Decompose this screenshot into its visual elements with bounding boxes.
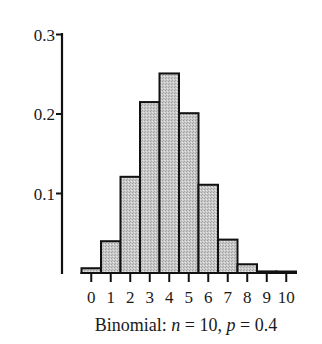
x-tick-label: 6 — [204, 288, 213, 307]
x-tick-label: 9 — [263, 288, 272, 307]
x-tick-label: 10 — [278, 288, 295, 307]
y-tick-label: 0.1 — [34, 185, 55, 204]
binomial-distribution-chart: 0.10.20.3 012345678910 Binomial: n = 10,… — [0, 0, 322, 344]
y-tick-label: 0.3 — [34, 26, 55, 45]
bar-1 — [101, 241, 121, 273]
caption-p-variable: p — [225, 315, 236, 335]
chart-caption: Binomial: n = 10, p = 0.4 — [95, 315, 277, 335]
x-tick-label: 2 — [126, 288, 135, 307]
x-tick-label: 0 — [87, 288, 96, 307]
bar-4 — [160, 73, 180, 273]
bar-8 — [238, 264, 258, 273]
bar-5 — [179, 113, 199, 273]
x-tick-label: 8 — [243, 288, 252, 307]
x-tick-label: 4 — [165, 288, 174, 307]
y-tick-label: 0.2 — [34, 105, 55, 124]
x-tick-label: 5 — [185, 288, 194, 307]
caption-p-value: = 0.4 — [236, 315, 278, 335]
x-tick-label: 7 — [224, 288, 233, 307]
bars — [82, 73, 297, 273]
x-tick-label: 3 — [146, 288, 155, 307]
bar-6 — [199, 185, 219, 273]
bar-3 — [140, 102, 160, 273]
y-axis: 0.10.20.3 — [34, 26, 63, 275]
caption-prefix: Binomial: — [95, 315, 172, 335]
bar-7 — [218, 240, 238, 273]
x-tick-label: 1 — [107, 288, 116, 307]
x-axis: 012345678910 — [81, 273, 297, 307]
caption-n-value: = 10, — [180, 315, 226, 335]
bar-2 — [121, 177, 141, 273]
caption-n-variable: n — [171, 315, 180, 335]
